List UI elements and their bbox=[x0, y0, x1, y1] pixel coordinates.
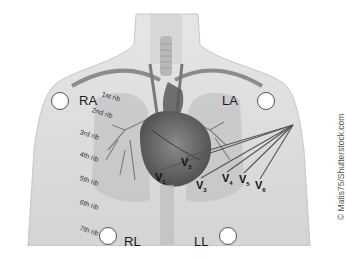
lead-v6: V6 bbox=[255, 180, 266, 193]
label-la: LA bbox=[222, 94, 238, 107]
label-ll: LL bbox=[194, 235, 208, 248]
watermark: © Matis75/Shutterstock.com bbox=[336, 114, 346, 220]
lead-v5: V5 bbox=[239, 174, 250, 187]
electrode-la bbox=[257, 92, 275, 110]
lead-v4: V4 bbox=[222, 173, 233, 186]
lead-v3: V3 bbox=[196, 180, 207, 193]
electrode-ra bbox=[51, 92, 69, 110]
electrode-rl bbox=[99, 227, 117, 245]
lead-v2: V2 bbox=[181, 157, 192, 170]
label-rl: RL bbox=[124, 235, 141, 248]
electrode-ll bbox=[219, 227, 237, 245]
lead-v1: V1 bbox=[155, 172, 166, 185]
label-ra: RA bbox=[79, 94, 97, 107]
